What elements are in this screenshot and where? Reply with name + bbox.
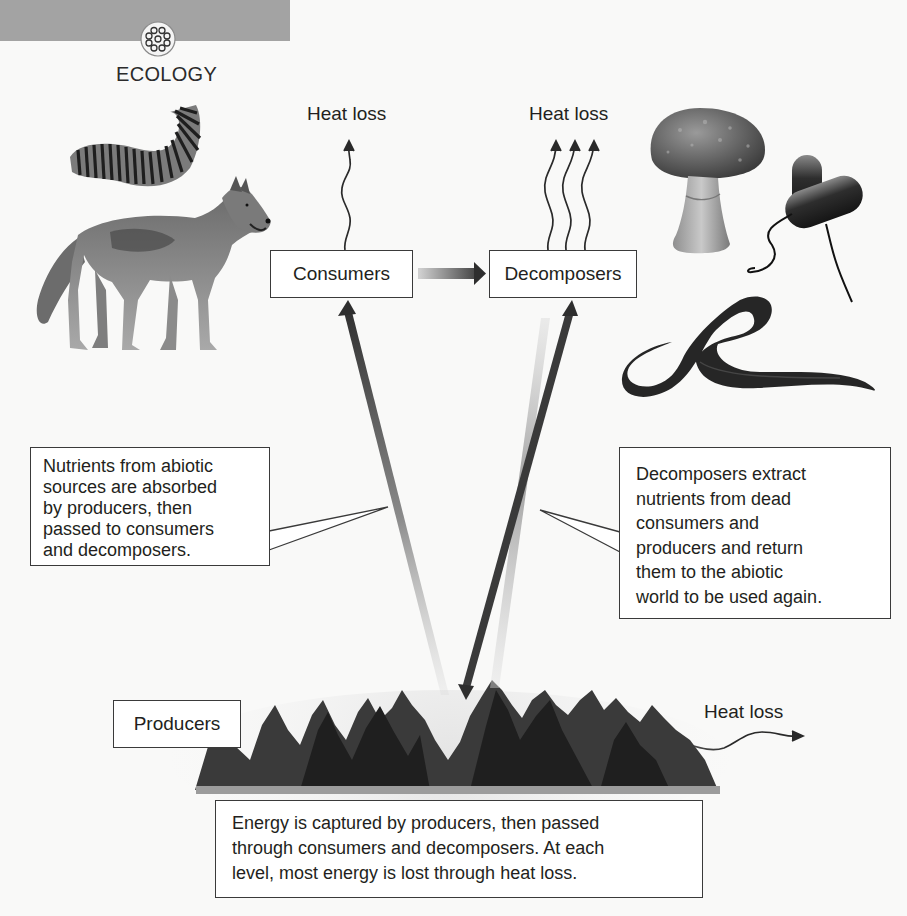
callout-energy-line: through consumers and decomposers. At ea… — [232, 836, 690, 861]
node-consumers: Consumers — [270, 250, 413, 298]
heat-loss-label-consumers: Heat loss — [307, 103, 386, 125]
arrow-decomposers-to-producers — [458, 300, 578, 700]
callout-energy: Energy is captured by producers, then pa… — [215, 800, 703, 898]
callout-nutrients-line: and decomposers. — [43, 540, 257, 561]
callout-decomposers-line: producers and return — [636, 536, 878, 561]
earthworm-illustration — [622, 297, 875, 397]
callout-nutrients-line: by producers, then — [43, 498, 257, 519]
callout-pointer-right — [540, 510, 620, 552]
callout-decomposers-line: world to be used again. — [636, 585, 878, 610]
callout-decomposers-line: consumers and — [636, 511, 878, 536]
callout-decomposers: Decomposers extract nutrients from dead … — [619, 447, 891, 619]
callout-decomposers-line: nutrients from dead — [636, 487, 878, 512]
node-producers: Producers — [113, 700, 241, 748]
callout-decomposers-line: them to the abiotic — [636, 560, 878, 585]
mushroom-illustration — [651, 108, 765, 253]
callout-energy-line: Energy is captured by producers, then pa… — [232, 811, 690, 836]
node-decomposers: Decomposers — [489, 250, 637, 298]
callout-nutrients-line: Nutrients from abiotic — [43, 456, 257, 477]
callout-energy-line: level, most energy is lost through heat … — [232, 861, 690, 886]
arrow-producers-to-consumers — [338, 300, 449, 695]
heat-loss-arrows-decomposers — [545, 141, 599, 250]
callout-decomposers-line: Decomposers extract — [636, 462, 878, 487]
caterpillar-illustration — [70, 105, 200, 186]
arrow-consumers-to-decomposers — [418, 262, 486, 285]
heat-loss-label-producers: Heat loss — [704, 701, 783, 723]
callout-nutrients-line: sources are absorbed — [43, 477, 257, 498]
wolf-illustration — [37, 176, 271, 350]
heat-loss-label-decomposers: Heat loss — [529, 103, 608, 125]
callout-nutrients: Nutrients from abiotic sources are absor… — [30, 447, 270, 566]
callout-nutrients-line: passed to consumers — [43, 519, 257, 540]
bacteria-illustration — [748, 155, 868, 302]
heat-loss-arrows-consumers — [342, 141, 354, 250]
callout-pointer-left — [269, 507, 388, 550]
